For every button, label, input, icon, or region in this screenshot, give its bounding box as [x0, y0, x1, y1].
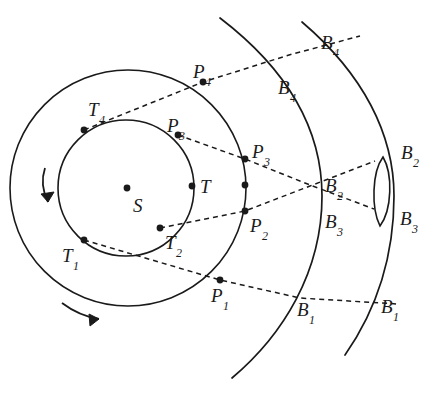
label-B2-outer: B2	[401, 143, 419, 166]
label-B3-outer: B3	[400, 209, 418, 232]
sun-center-point	[124, 185, 131, 192]
label-B3-inner: B3	[325, 212, 343, 235]
point-P2	[242, 208, 249, 215]
epicycle-lens-shape	[374, 157, 390, 226]
point-T2	[157, 225, 164, 232]
label-P3-inner: P3	[167, 116, 185, 139]
point-P1	[217, 277, 224, 284]
label-P4: P4	[193, 62, 211, 85]
point-T4	[81, 127, 88, 134]
label-P3-outer: P3	[252, 142, 270, 165]
label-P2: P2	[250, 216, 268, 239]
point-P3o	[242, 156, 249, 163]
sight-lines-group	[84, 36, 398, 304]
point-T	[189, 183, 196, 190]
point-mid	[242, 182, 249, 189]
label-T4: T4	[88, 100, 105, 123]
outer-rotation-arrow-head	[89, 314, 99, 326]
label-B2-inner: B2	[325, 176, 343, 199]
label-T: T	[200, 177, 211, 196]
label-B4-outer: B4	[321, 33, 339, 56]
ray-1	[84, 240, 398, 304]
diagram-canvas	[0, 0, 438, 395]
label-P1: P1	[211, 286, 229, 309]
astronomical-diagram-figure: STT1T2T4P1P2P3P3P4B1B1B2B2B3B3B4B4	[0, 0, 438, 395]
label-T2: T2	[165, 233, 182, 256]
point-T1	[81, 237, 88, 244]
label-B1-inner: B1	[297, 300, 315, 323]
label-B4-inner: B4	[278, 78, 296, 101]
label-B1-outer: B1	[381, 297, 399, 320]
inner-rotation-arrow-head	[41, 192, 54, 202]
label-T1: T1	[62, 246, 79, 269]
label-S: S	[133, 196, 143, 215]
